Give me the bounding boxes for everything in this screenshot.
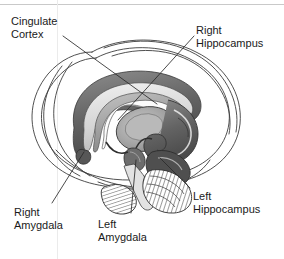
label-left-amygdala: Left Amygdala [98, 218, 147, 243]
label-cingulate-cortex-line1: Cingulate [11, 15, 57, 28]
label-left-amygdala-line2: Amygdala [98, 231, 147, 244]
label-right-hippocampus: Right Hippocampus [196, 24, 263, 49]
label-right-amygdala-line1: Right [14, 206, 63, 219]
label-right-hippocampus-line1: Right [196, 24, 263, 37]
label-left-hippocampus-line2: Hippocampus [193, 203, 260, 216]
label-left-amygdala-line1: Left [98, 218, 147, 231]
label-right-amygdala-line2: Amygdala [14, 219, 63, 232]
label-right-hippocampus-line2: Hippocampus [196, 37, 263, 50]
label-left-hippocampus: Left Hippocampus [193, 190, 260, 215]
limbic-system-figure: Cingulate Cortex Right Hippocampus Right… [0, 0, 284, 259]
label-right-amygdala: Right Amygdala [14, 206, 63, 231]
leader-right-amygdala [52, 152, 84, 203]
label-cingulate-cortex: Cingulate Cortex [11, 15, 57, 40]
label-left-hippocampus-line1: Left [193, 190, 260, 203]
label-cingulate-cortex-line2: Cortex [11, 28, 57, 41]
